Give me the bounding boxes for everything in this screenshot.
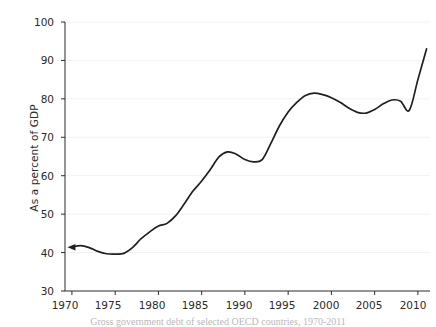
y-tick-label-50: 50 — [24, 208, 54, 220]
plot-area — [0, 0, 436, 327]
x-tick-label-1985: 1985 — [172, 299, 218, 311]
x-tick-label-2005: 2005 — [346, 299, 392, 311]
gridlines — [65, 22, 430, 253]
x-tick-label-1990: 1990 — [216, 299, 262, 311]
y-tick-label-100: 100 — [24, 16, 54, 28]
x-tick-label-1970: 1970 — [42, 299, 88, 311]
series-start-arrow-icon — [67, 244, 75, 250]
chart-figure: As a percent of GDP 100 90 80 70 60 50 4… — [0, 0, 436, 327]
y-tick-label-30: 30 — [24, 285, 54, 297]
y-tick-marks — [61, 22, 65, 291]
y-tick-label-60: 60 — [24, 170, 54, 182]
y-tick-label-40: 40 — [24, 247, 54, 259]
x-tick-label-2010: 2010 — [390, 299, 436, 311]
x-tick-marks — [72, 291, 418, 295]
x-tick-label-1975: 1975 — [85, 299, 131, 311]
figure-caption: Gross government debt of selected OECD c… — [0, 316, 436, 327]
x-tick-label-2000: 2000 — [303, 299, 349, 311]
y-tick-label-90: 90 — [24, 54, 54, 66]
x-tick-label-1995: 1995 — [259, 299, 305, 311]
data-series-line — [72, 49, 427, 254]
x-tick-label-1980: 1980 — [129, 299, 175, 311]
y-tick-label-70: 70 — [24, 131, 54, 143]
y-tick-label-80: 80 — [24, 93, 54, 105]
